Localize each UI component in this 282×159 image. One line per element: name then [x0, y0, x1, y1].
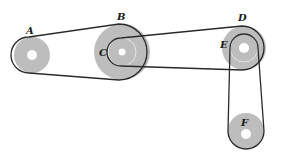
label-f: F: [240, 117, 249, 128]
label-e: E: [219, 39, 228, 50]
pulley-a: [14, 37, 50, 73]
label-c: C: [99, 47, 107, 58]
label-a: A: [25, 25, 34, 36]
label-d: D: [237, 12, 247, 23]
belt-pulley-diagram: A B C D E F: [0, 0, 282, 159]
label-b: B: [116, 11, 125, 22]
